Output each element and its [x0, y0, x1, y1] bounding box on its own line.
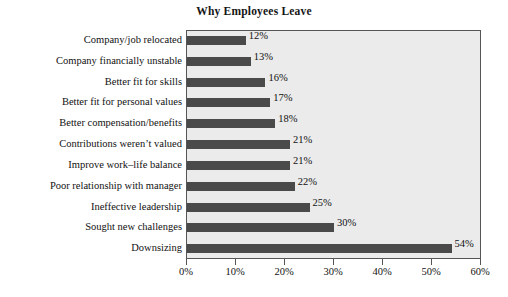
bar-row: 18%	[187, 114, 480, 135]
x-axis-tick	[333, 259, 334, 265]
category-label: Sought new challenges	[0, 221, 182, 232]
x-axis-tick-label: 10%	[225, 266, 244, 277]
x-axis-tick-label: 30%	[323, 266, 342, 277]
category-label: Contributions weren’t valued	[0, 138, 182, 149]
bar-row: 54%	[187, 239, 480, 260]
bar-value-label: 18%	[278, 113, 297, 124]
x-axis-tick	[235, 259, 236, 265]
bar	[187, 36, 246, 45]
bar-row: 21%	[187, 135, 480, 156]
bar	[187, 98, 270, 107]
bar-value-label: 30%	[337, 217, 356, 228]
x-axis-tick-label: 60%	[470, 266, 489, 277]
x-axis-tick	[186, 259, 187, 265]
x-axis-tick	[480, 259, 481, 265]
category-label: Downsizing	[0, 242, 182, 253]
y-axis-category-labels: Company/job relocatedCompany financially…	[0, 30, 182, 259]
category-label: Improve work–life balance	[0, 159, 182, 170]
x-axis-tick-label: 20%	[274, 266, 293, 277]
x-axis-tick	[284, 259, 285, 265]
bar	[187, 203, 310, 212]
bar-row: 21%	[187, 156, 480, 177]
bar-value-label: 12%	[249, 30, 268, 41]
bar	[187, 223, 334, 232]
bar	[187, 182, 295, 191]
x-axis-tick	[431, 259, 432, 265]
x-axis-tick-label: 40%	[372, 266, 391, 277]
bar-value-label: 54%	[455, 238, 474, 249]
x-axis-tick-label: 0%	[179, 266, 193, 277]
bar-value-label: 21%	[293, 155, 312, 166]
category-label: Ineffective leadership	[0, 201, 182, 212]
category-label: Better compensation/benefits	[0, 117, 182, 128]
chart-title: Why Employees Leave	[0, 5, 508, 17]
bar-row: 17%	[187, 93, 480, 114]
bar-row: 13%	[187, 52, 480, 73]
bar-value-label: 17%	[273, 92, 292, 103]
bar-row: 12%	[187, 31, 480, 52]
category-label: Company financially unstable	[0, 55, 182, 66]
bar-value-label: 21%	[293, 134, 312, 145]
x-axis-tick-label: 50%	[421, 266, 440, 277]
category-label: Better fit for skills	[0, 76, 182, 87]
plot-area: 12%13%16%17%18%21%21%22%25%30%54%	[186, 30, 481, 259]
bar	[187, 140, 290, 149]
bar-value-label: 13%	[254, 51, 273, 62]
bar-value-label: 22%	[298, 176, 317, 187]
bar	[187, 57, 251, 66]
category-label: Poor relationship with manager	[0, 180, 182, 191]
bar-row: 16%	[187, 73, 480, 94]
bar-row: 25%	[187, 198, 480, 219]
x-axis-tick	[382, 259, 383, 265]
bar	[187, 244, 452, 253]
category-label: Company/job relocated	[0, 34, 182, 45]
bar-value-label: 16%	[268, 72, 287, 83]
bar	[187, 78, 265, 87]
category-label: Better fit for personal values	[0, 96, 182, 107]
bar	[187, 161, 290, 170]
bar	[187, 119, 275, 128]
bar-chart: Why Employees Leave 12%13%16%17%18%21%21…	[0, 0, 508, 297]
bar-value-label: 25%	[313, 197, 332, 208]
bar-row: 30%	[187, 218, 480, 239]
bar-row: 22%	[187, 177, 480, 198]
x-axis: 0%10%20%30%40%50%60%	[186, 259, 481, 291]
